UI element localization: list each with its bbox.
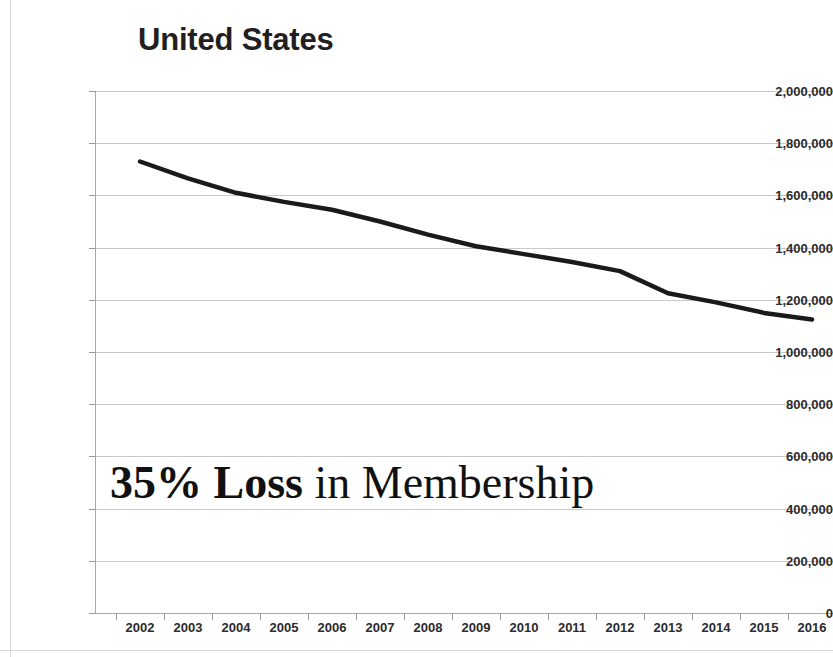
series-line-membership (140, 162, 812, 320)
annotation-rest: in Membership (303, 457, 594, 508)
data-series-layer (0, 0, 833, 657)
line-chart: United States 2,000,0001,800,0001,600,00… (0, 0, 833, 657)
annotation-loss-word: Loss (202, 457, 303, 508)
loss-annotation: 35% Loss in Membership (110, 458, 594, 509)
annotation-percent: 35% (110, 457, 202, 508)
